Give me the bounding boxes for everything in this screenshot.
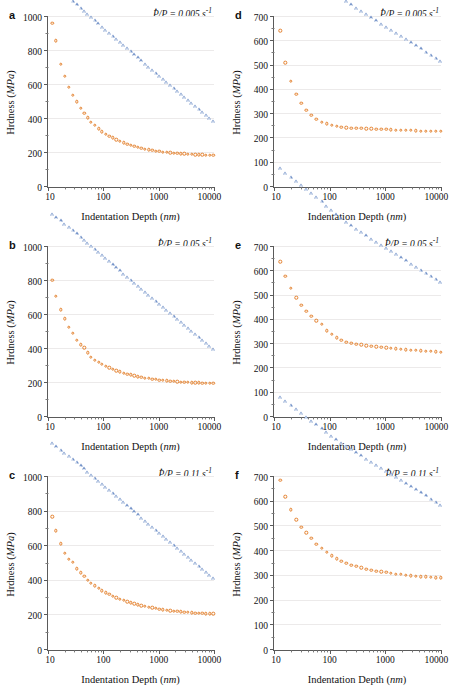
y-gridline [48, 348, 214, 349]
x-axis-minor-tick [313, 187, 314, 189]
data-point-circle [75, 100, 78, 103]
x-axis-tick-label: 10 [271, 192, 281, 202]
x-axis-minor-tick [317, 417, 318, 419]
data-point-circle [82, 111, 85, 114]
y-axis-tick-label: 200 [254, 596, 268, 606]
data-point-circle [350, 126, 353, 129]
data-point-triangle [314, 195, 318, 198]
data-point-triangle [404, 259, 408, 262]
data-point-circle [289, 79, 292, 82]
data-point-circle [211, 381, 214, 384]
data-point-circle [300, 525, 303, 528]
y-axis-minor-tick [46, 101, 49, 102]
data-point-circle [63, 317, 66, 320]
panel-b-plot-area: 0200400600800100010100100010000 [47, 247, 214, 418]
data-point-triangle [335, 438, 339, 441]
y-axis-tick-label: 0 [37, 183, 42, 193]
y-axis-tick-label: 400 [254, 315, 268, 325]
x-axis-minor-tick [291, 650, 292, 652]
x-axis-minor-tick [436, 650, 437, 652]
x-axis-minor-tick [156, 417, 157, 419]
data-point-triangle [299, 183, 303, 186]
x-axis-minor-tick [383, 650, 384, 652]
x-axis-minor-tick [369, 417, 370, 419]
x-axis-minor-tick [383, 417, 384, 419]
x-axis-minor-tick [95, 187, 96, 189]
data-point-triangle [409, 262, 413, 265]
y-axis-tick-label: 0 [263, 646, 268, 656]
data-point-circle [79, 571, 82, 574]
x-axis-minor-tick [120, 417, 121, 419]
data-point-triangle [364, 234, 368, 237]
data-point-circle [54, 529, 57, 532]
x-axis-tick-label: 1000 [376, 192, 395, 202]
x-axis-tick-label: 10000 [197, 655, 221, 665]
panel-d-y-axis-title: Hrdness (MPa) [228, 17, 244, 188]
data-point-triangle [439, 59, 443, 62]
x-axis-tick [385, 417, 386, 421]
x-axis-minor-tick [324, 187, 325, 189]
x-axis-minor-tick [369, 650, 370, 652]
y-axis-minor-tick [46, 331, 49, 332]
data-point-triangle [409, 485, 413, 488]
x-axis-tick [330, 417, 331, 421]
x-axis-tick-label: 100 [96, 192, 110, 202]
x-axis-minor-tick [175, 187, 176, 189]
y-axis-tick-label: 600 [254, 37, 268, 47]
x-axis-tick [274, 187, 275, 191]
data-point-circle [71, 94, 74, 97]
x-axis-minor-tick [356, 650, 357, 652]
data-point-triangle [54, 216, 58, 219]
x-axis-minor-tick [87, 417, 88, 419]
x-axis-minor-tick [373, 187, 374, 189]
y-axis-tick [270, 600, 274, 601]
x-axis-minor-tick [363, 650, 364, 652]
data-point-circle [59, 63, 62, 66]
data-point-triangle [399, 256, 403, 259]
data-point-triangle [414, 44, 418, 47]
x-axis-minor-tick [192, 417, 193, 419]
y-axis-tick-label: 1000 [23, 243, 42, 253]
x-axis-minor-tick [424, 650, 425, 652]
data-point-triangle [429, 53, 433, 56]
y-axis-minor-tick [46, 528, 49, 529]
data-point-circle [330, 124, 333, 127]
data-point-triangle [309, 191, 313, 194]
data-point-circle [365, 127, 368, 130]
y-axis-minor-tick [272, 52, 275, 53]
y-axis-minor-tick [272, 150, 275, 151]
panel-f-plot-area: 010020030040050060070010100100010000 [273, 477, 441, 651]
data-point-circle [439, 350, 442, 353]
data-point-circle [67, 325, 70, 328]
y-gridline [274, 65, 441, 66]
y-axis-minor-tick [46, 135, 49, 136]
x-axis-minor-tick [429, 187, 430, 189]
data-point-triangle [294, 179, 298, 182]
data-point-triangle [364, 13, 368, 16]
data-point-circle [59, 308, 62, 311]
y-axis-tick [270, 550, 274, 551]
panel-d-x-axis-title: Indentation Depth (nm) [273, 211, 441, 222]
x-axis-minor-tick [130, 417, 131, 419]
x-axis-minor-tick [209, 650, 210, 652]
data-point-triangle [364, 457, 368, 460]
data-point-circle [370, 344, 373, 347]
data-point-triangle [404, 482, 408, 485]
data-point-triangle [359, 454, 363, 457]
data-point-circle [365, 344, 368, 347]
x-axis-minor-tick [363, 417, 364, 419]
y-axis-minor-tick [272, 28, 275, 29]
y-axis-tick [44, 545, 48, 546]
y-gridline [274, 246, 441, 247]
data-point-triangle [354, 6, 358, 9]
data-point-triangle [369, 460, 373, 463]
x-axis-minor-tick [424, 417, 425, 419]
data-point-circle [419, 349, 422, 352]
data-point-triangle [384, 246, 388, 249]
y-axis-tick-label: 400 [28, 345, 42, 355]
y-axis-tick-label: 800 [28, 47, 42, 57]
y-axis-minor-tick [46, 297, 49, 298]
y-axis-minor-tick [272, 77, 275, 78]
y-axis-tick [270, 137, 274, 138]
data-point-circle [315, 117, 318, 120]
